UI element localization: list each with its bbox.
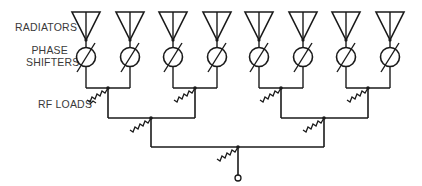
antenna-element-3 <box>159 12 187 88</box>
antenna-element-6 <box>289 12 317 88</box>
output-port-icon <box>235 175 241 181</box>
combiner-level-3 <box>151 147 324 175</box>
antenna-element-1 <box>72 12 100 88</box>
antenna-element-8 <box>376 12 404 88</box>
antenna-element-7 <box>332 12 360 88</box>
antenna-element-5 <box>245 12 273 88</box>
combiner-level-1 <box>86 88 390 118</box>
feed-network-svg <box>0 0 422 186</box>
antenna-element-4 <box>203 12 231 88</box>
antenna-element-2 <box>116 12 144 88</box>
